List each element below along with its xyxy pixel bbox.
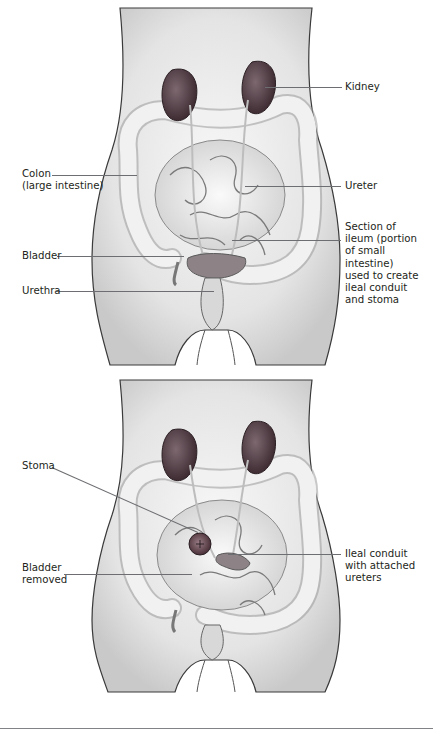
label-bladder-removed: Bladder removed <box>22 562 67 586</box>
label-kidney: Kidney <box>345 81 380 93</box>
leader-ureter <box>245 186 341 187</box>
label-ileum-section: Section of ileum (portion of small intes… <box>345 221 419 306</box>
label-ureter: Ureter <box>345 180 377 192</box>
label-ileal-conduit: Ileal conduit with attached ureters <box>345 548 415 585</box>
label-urethra: Urethra <box>22 285 61 297</box>
leader-ileum <box>232 240 341 241</box>
label-stoma: Stoma <box>22 460 55 472</box>
panel-after-surgery: Stoma Ileal conduit with attached ureter… <box>0 370 433 700</box>
torso-illustration-after <box>0 370 433 700</box>
leader-kidney <box>265 87 342 88</box>
panel-before-surgery: Kidney Colon (large intestine) Ureter Se… <box>0 0 433 370</box>
label-bladder: Bladder <box>22 250 61 262</box>
leader-urethra <box>56 291 214 292</box>
label-colon: Colon (large intestine) <box>22 168 103 192</box>
leader-bladder <box>57 256 184 257</box>
leader-bladder-removed <box>64 574 192 575</box>
leader-ileal-conduit <box>228 554 341 555</box>
bottom-divider <box>0 728 433 729</box>
